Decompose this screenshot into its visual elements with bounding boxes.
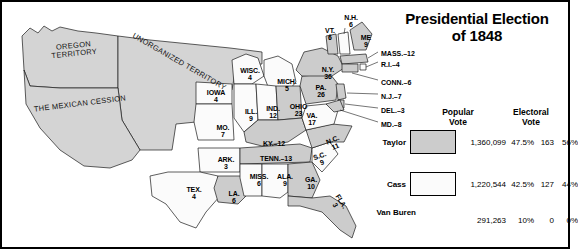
popular-votes-cass: 1,220,544 — [458, 180, 506, 189]
state-label-iowa: IOWA4 — [199, 89, 233, 104]
popular-pct-cass: 42.5% — [508, 180, 534, 189]
popular-vote-header: Popular Vote — [420, 108, 496, 127]
electoral-votes: 6 — [349, 21, 353, 28]
electoral-pct-cass: 44% — [556, 180, 578, 189]
swatch-taylor — [410, 130, 456, 154]
electoral-pct-van-buren: 0% — [556, 216, 578, 225]
electoral-votes-cass: 127 — [536, 180, 554, 189]
popular-pct-van-buren: 10% — [508, 216, 534, 225]
leader-line-new-jersey — [347, 93, 378, 94]
shape-new-jersey — [336, 84, 346, 100]
state-name: MICH. — [277, 78, 296, 85]
electoral-votes: 6 — [328, 34, 332, 41]
state-label-indiana: IND.12 — [262, 105, 284, 120]
leader-line-rhode-island — [366, 62, 378, 67]
electoral-votes: 4 — [248, 74, 252, 81]
state-name: WISC. — [240, 67, 260, 74]
electoral-votes: 36 — [324, 73, 332, 80]
state-label-new-hampshire: N.H.6 — [339, 14, 363, 29]
state-name: ALA. — [277, 173, 293, 180]
state-name: LA. — [229, 190, 240, 197]
state-name: ARK. — [218, 156, 235, 163]
map-title: Presidential Election of 1848 — [392, 10, 562, 44]
shape-connecticut — [342, 64, 358, 72]
shape-massachusetts — [340, 54, 368, 64]
state-label-virginia: VA.17 — [301, 112, 323, 127]
state-name: IND. — [266, 105, 280, 112]
state-label-michigan: MICH.5 — [272, 78, 302, 93]
electoral-votes: 9 — [249, 115, 253, 122]
state-name: MISS. — [250, 173, 269, 180]
electoral-votes: 6 — [257, 180, 261, 187]
electoral-votes: 4 — [214, 96, 218, 103]
state-label-wisconsin: WISC.4 — [235, 67, 265, 82]
electoral-votes: 4 — [192, 193, 196, 200]
leader-line-massachusetts — [368, 52, 378, 58]
shape-rhode-island — [360, 64, 366, 70]
candidate-label-van-buren: Van Buren — [364, 208, 416, 217]
state-label-kentucky: KY.–12 — [252, 140, 296, 147]
electoral-votes: 12 — [277, 140, 285, 147]
state-name: N.H. — [344, 14, 358, 21]
leader-label-connecticut: CONN.–6 — [381, 79, 411, 86]
popular-votes-van-buren: 291,263 — [458, 216, 506, 225]
electoral-pct-taylor: 56% — [556, 138, 578, 147]
electoral-votes: 26 — [317, 91, 325, 98]
state-name: IOWA — [207, 89, 225, 96]
electoral-votes-taylor: 163 — [536, 138, 554, 147]
electoral-votes: 9 — [283, 180, 287, 187]
electoral-votes: 6 — [232, 197, 236, 204]
candidate-label-cass: Cass — [354, 180, 406, 189]
leader-label-massachusetts: MASS.–12 — [381, 50, 415, 57]
popular-pct-taylor: 47.5% — [508, 138, 534, 147]
electoral-votes: 9 — [364, 41, 368, 48]
leader-label-rhode-island: R.I.–4 — [381, 61, 400, 68]
popular-votes-taylor: 1,360,099 — [458, 138, 506, 147]
swatch-cass — [410, 172, 456, 196]
state-name: PA. — [316, 84, 327, 91]
state-label-mississippi: MISS.6 — [246, 173, 272, 188]
leader-label-delaware: DEL.–3 — [381, 107, 405, 114]
electoral-votes: 7 — [221, 131, 225, 138]
state-name: GA. — [305, 176, 317, 183]
leader-line-maryland — [340, 110, 378, 122]
state-name: TENN. — [260, 155, 281, 162]
state-label-missouri: MO.7 — [210, 124, 236, 139]
electoral-votes: 10 — [307, 183, 315, 190]
state-name: KY. — [263, 140, 274, 147]
electoral-votes-van-buren: 0 — [536, 216, 554, 225]
title-line-2: of 1848 — [392, 27, 562, 44]
leader-line-delaware — [345, 104, 378, 108]
state-label-maine: ME9 — [356, 34, 376, 49]
state-name: ILL. — [245, 108, 257, 115]
state-label-new-york: N.Y.36 — [316, 66, 340, 81]
state-label-tennessee: TENN.–13 — [250, 155, 302, 162]
electoral-votes: 17 — [308, 119, 316, 126]
state-name: MO. — [217, 124, 230, 131]
state-name: N.Y. — [322, 66, 334, 73]
state-label-texas: TEX.4 — [181, 186, 207, 201]
state-label-arkansas: ARK.3 — [213, 156, 239, 171]
title-line-1: Presidential Election — [392, 10, 562, 27]
electoral-votes: 12 — [269, 112, 277, 119]
leader-label-new-jersey: N.J.–7 — [381, 93, 402, 100]
electoral-votes: 3 — [224, 163, 228, 170]
leader-line-connecticut — [352, 73, 378, 80]
state-label-illinois: ILL.9 — [240, 108, 262, 123]
state-name: TEX. — [186, 186, 201, 193]
state-label-vermont: VT.6 — [320, 27, 340, 42]
electoral-votes: 9 — [319, 159, 325, 167]
state-name: VT. — [325, 27, 335, 34]
state-label-alabama: ALA.9 — [273, 173, 297, 188]
electoral-votes: 3 — [331, 202, 339, 209]
state-label-pennsylvania: PA.26 — [310, 84, 332, 99]
state-label-georgia: GA.10 — [300, 176, 322, 191]
state-name: ME — [361, 34, 371, 41]
state-label-louisiana: LA.6 — [224, 190, 244, 205]
candidate-label-taylor: Taylor — [354, 138, 406, 147]
state-name: OHIO — [290, 103, 308, 110]
state-name: VA. — [307, 112, 318, 119]
leader-label-maryland: MD.–8 — [381, 121, 402, 128]
electoral-votes: 5 — [285, 85, 289, 92]
